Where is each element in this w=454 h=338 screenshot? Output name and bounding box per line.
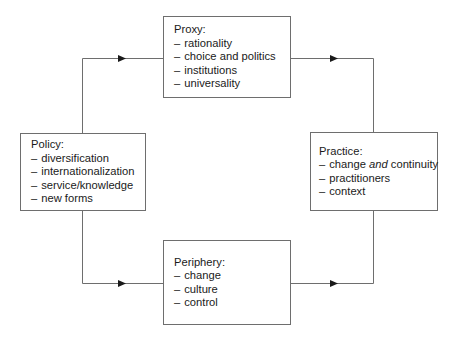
arrowhead-periphery-to-practice-icon: [330, 280, 338, 287]
cycle-diagram: Proxy: –rationality –choice and politics…: [0, 0, 454, 338]
list-item: –choice and politics: [174, 50, 290, 63]
connector-policy-to-proxy: [83, 59, 164, 134]
list-item: –context: [319, 185, 437, 198]
list-item: –institutions: [174, 64, 290, 77]
list-item: –rationality: [174, 37, 290, 50]
list-item: –control: [174, 296, 290, 309]
node-policy: Policy: –diversification –internationali…: [20, 133, 146, 211]
connector-periphery-to-practice: [291, 211, 374, 284]
list-item: –culture: [174, 283, 290, 296]
connector-policy-to-periphery: [83, 211, 164, 284]
node-practice: Practice: –change and continuity –practi…: [310, 132, 438, 211]
list-item: –service/knowledge: [31, 179, 145, 192]
node-item-list: –rationality –choice and politics –insti…: [174, 37, 290, 91]
node-item-list: –change –culture –control: [174, 269, 290, 309]
node-periphery: Periphery: –change –culture –control: [163, 240, 291, 325]
node-title: Practice:: [319, 145, 437, 158]
node-item-list: –change and continuity –practitioners –c…: [319, 158, 437, 198]
arrowhead-policy-to-periphery-icon: [118, 280, 126, 287]
node-proxy: Proxy: –rationality –choice and politics…: [163, 16, 291, 98]
node-title: Proxy:: [174, 23, 290, 36]
connector-proxy-to-practice: [291, 59, 374, 133]
list-item: –universality: [174, 77, 290, 90]
list-item: –change: [174, 269, 290, 282]
node-item-list: –diversification –internationalization –…: [31, 152, 145, 206]
list-item: –change and continuity: [319, 158, 437, 171]
list-item: –diversification: [31, 152, 145, 165]
list-item: –internationalization: [31, 165, 145, 178]
arrowhead-policy-to-proxy-icon: [118, 55, 126, 62]
list-item: –practitioners: [319, 172, 437, 185]
node-title: Policy:: [31, 138, 145, 151]
arrowhead-proxy-to-practice-icon: [330, 55, 338, 62]
list-item: –new forms: [31, 192, 145, 205]
node-title: Periphery:: [174, 256, 290, 269]
